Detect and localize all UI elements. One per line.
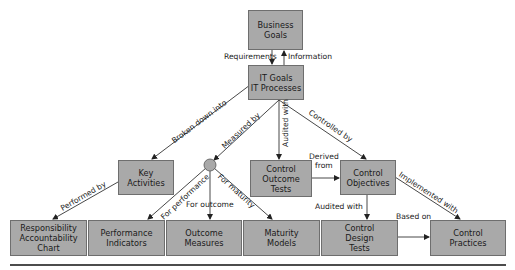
node-label: Performance Indicators [101, 228, 153, 248]
edge-label-for-outcome: For outcome [186, 200, 234, 209]
edge-label-audited-with: Audited with [281, 99, 290, 147]
node-label: Control Objectives [346, 168, 389, 188]
node-label: Control Practices [450, 228, 487, 248]
node-label: IT Goals IT Processes [251, 73, 301, 93]
node-label: Control Outcome Tests [262, 164, 299, 194]
node-key-activities[interactable]: Key Activities [118, 160, 174, 195]
edge-label-information: Information [288, 52, 332, 61]
edge-label-requirements: Requirements [224, 52, 277, 61]
node-label: Key Activities [127, 168, 164, 188]
node-label: Responsibility Accountability Chart [19, 223, 77, 253]
edge-label-audited-with-design: Audited with [315, 202, 363, 211]
node-label: Maturity Models [264, 228, 298, 248]
node-outcome-measures[interactable]: Outcome Measures [166, 220, 242, 256]
edge-label-based-on: Based on [396, 212, 431, 221]
node-business-goals[interactable]: Business Goals [248, 10, 303, 50]
junction-node [204, 159, 216, 171]
node-label: Outcome Measures [184, 228, 223, 248]
node-it-goals[interactable]: IT Goals IT Processes [248, 65, 304, 100]
edge-label-derived-from: Derived from [309, 152, 339, 170]
node-label: Control Design Tests [345, 223, 375, 253]
node-performance-indicators[interactable]: Performance Indicators [88, 220, 165, 256]
node-control-design-tests[interactable]: Control Design Tests [321, 220, 398, 256]
node-maturity-models[interactable]: Maturity Models [243, 220, 320, 256]
node-raci-chart[interactable]: Responsibility Accountability Chart [10, 220, 87, 256]
node-control-practices[interactable]: Control Practices [430, 220, 506, 256]
node-control-outcome-tests[interactable]: Control Outcome Tests [250, 160, 312, 197]
node-control-objectives[interactable]: Control Objectives [340, 160, 396, 195]
node-label: Business Goals [257, 20, 293, 40]
